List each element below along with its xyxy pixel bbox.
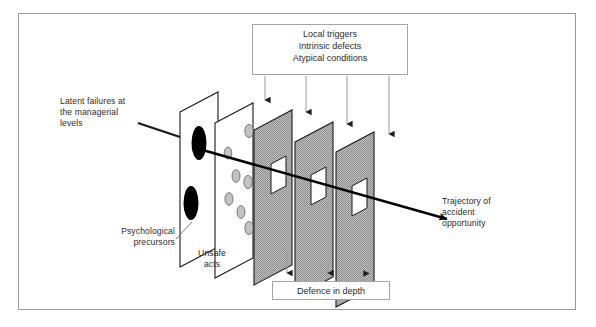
local-triggers-text: Local triggers Intrinsic defects Atypica…	[253, 25, 407, 64]
hole-gray-6	[237, 206, 245, 219]
defence-in-depth-text: Defence in depth	[273, 282, 389, 297]
plane-defence-1	[254, 110, 292, 285]
hole-black-2	[184, 186, 199, 220]
plane-defence-2	[295, 122, 333, 297]
hole-gray-1	[245, 124, 253, 137]
hole-gray-4	[244, 175, 252, 188]
hole-gray-5	[225, 193, 233, 206]
plane-latent-failures	[180, 92, 218, 267]
label-trajectory: Trajectory of accident opportunity	[442, 196, 552, 230]
label-latent-failures: Latent failures at the managerial levels	[60, 96, 180, 130]
local-triggers-box: Local triggers Intrinsic defects Atypica…	[252, 24, 408, 75]
hole-black-1	[192, 126, 207, 160]
figure-canvas: Local triggers Intrinsic defects Atypica…	[0, 0, 596, 327]
hole-gray-3	[232, 170, 240, 183]
hole-gray-7	[245, 221, 253, 234]
label-unsafe-acts: Unsafe acts	[181, 248, 243, 270]
label-psychological-precursors: Psychological precursors	[57, 226, 175, 248]
defence-in-depth-box: Defence in depth	[272, 281, 390, 300]
